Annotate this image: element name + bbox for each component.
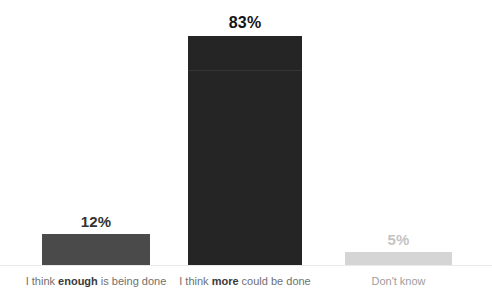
- label-text-prefix-1: I think: [26, 275, 58, 287]
- category-label-enough: I think enough is being done: [18, 274, 174, 288]
- bar-group-more[interactable]: 83%: [188, 0, 302, 265]
- label-text-suffix-2: could be done: [239, 275, 311, 287]
- category-axis-labels: I think enough is being done I think mor…: [0, 265, 492, 299]
- label-text-emphasis-1: enough: [58, 275, 98, 287]
- label-text-prefix-2: I think: [179, 275, 211, 287]
- bar-group-dont-know[interactable]: 5%: [345, 0, 452, 265]
- label-text-emphasis-2: more: [212, 275, 239, 287]
- bar-value-label-2: 83%: [188, 14, 302, 32]
- bar-dont-know[interactable]: [345, 252, 452, 265]
- bar-seam-line: [188, 70, 302, 71]
- bar-group-enough[interactable]: 12%: [42, 0, 150, 265]
- plot-area: 12% 83% 5%: [0, 0, 492, 265]
- bar-more[interactable]: [188, 36, 302, 265]
- category-label-more: I think more could be done: [173, 274, 317, 288]
- bar-value-label-3: 5%: [345, 231, 452, 248]
- bar-enough[interactable]: [42, 234, 150, 265]
- category-label-dont-know: Don't know: [345, 274, 452, 288]
- label-text-suffix-1: is being done: [98, 275, 167, 287]
- label-text-suffix-3: Don't know: [371, 275, 425, 287]
- bar-chart: 12% 83% 5% I think enough is being done …: [0, 0, 492, 299]
- bar-value-label-1: 12%: [42, 213, 150, 230]
